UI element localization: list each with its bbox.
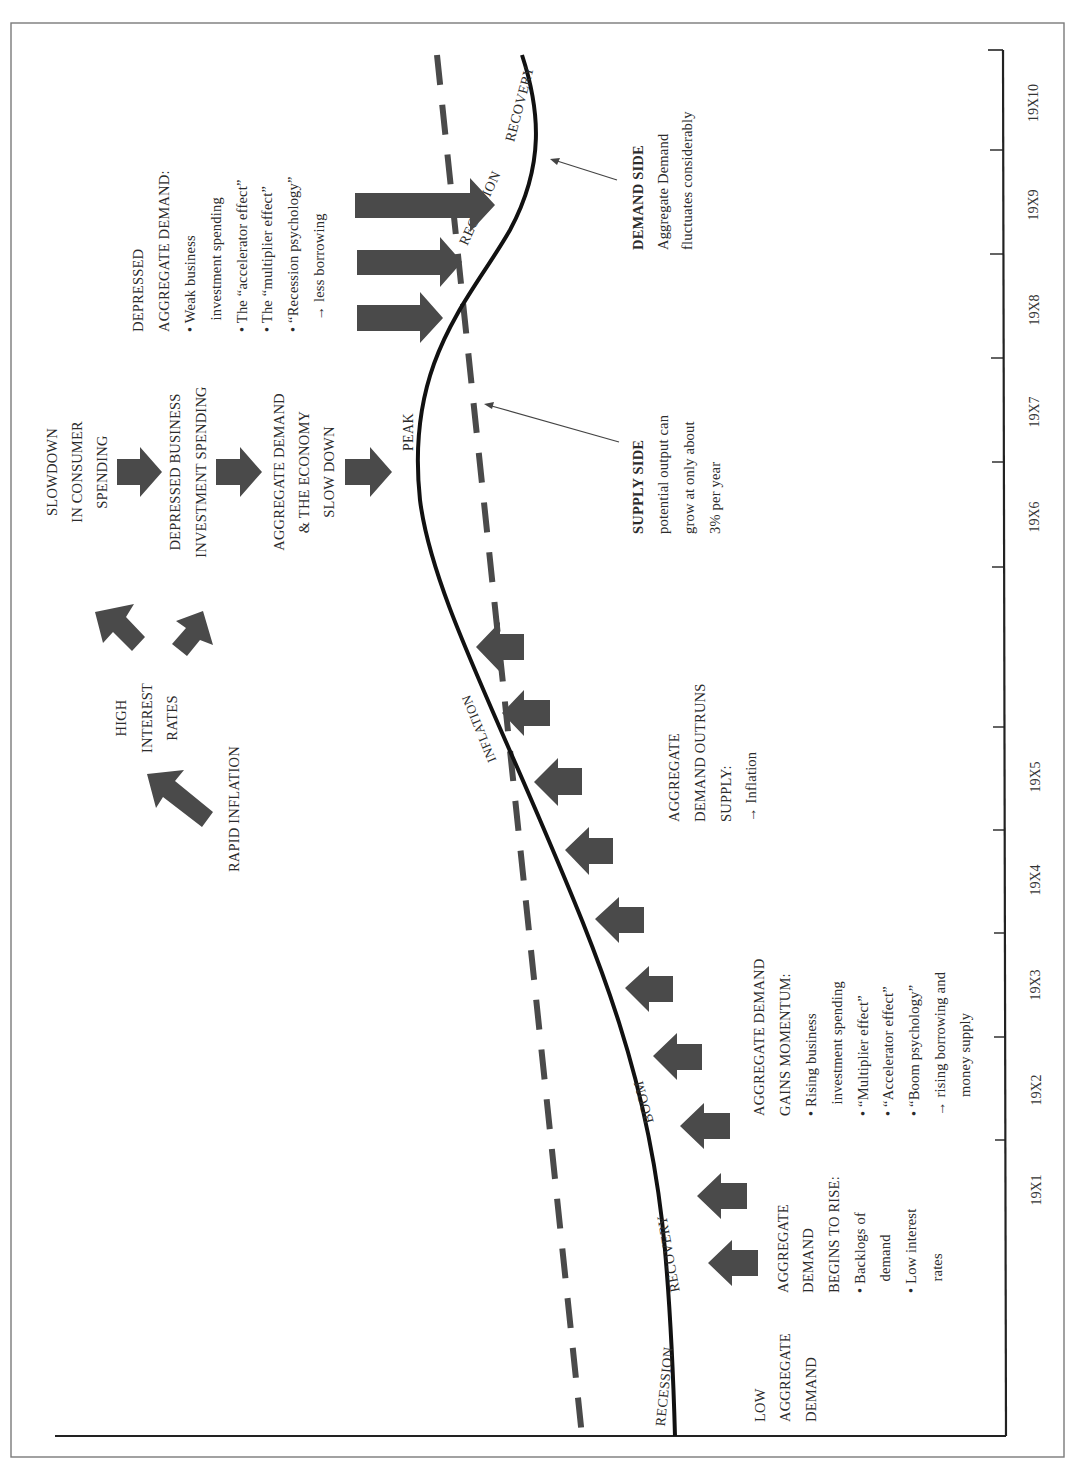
svg-text:rates: rates <box>929 1253 945 1293</box>
arrow-right-icon <box>117 447 162 497</box>
svg-text:Aggregate Demand: Aggregate Demand <box>655 133 671 250</box>
svg-text:BEGINS TO RISE:: BEGINS TO RISE: <box>826 1176 842 1293</box>
tick-19x10: 19X10 <box>1026 84 1041 122</box>
svg-text:investment spending: investment spending <box>208 197 224 332</box>
svg-text:AGGREGATE: AGGREGATE <box>777 1333 793 1422</box>
svg-text:money supply: money supply <box>957 1012 973 1116</box>
svg-text:• “Boom psychology”: • “Boom psychology” <box>906 985 922 1116</box>
begins-to-rise-note: AGGREGATE DEMAND BEGINS TO RISE: • Backl… <box>775 1176 945 1293</box>
arrow-left-icon <box>476 622 524 672</box>
svg-text:• Low interest: • Low interest <box>903 1209 919 1293</box>
tick-19x3: 19X3 <box>1028 969 1043 1000</box>
svg-text:→ rising borrowing and: → rising borrowing and <box>932 971 948 1116</box>
svg-text:investment spending: investment spending <box>829 981 845 1116</box>
tick-19x2: 19X2 <box>1029 1074 1044 1105</box>
arrow-up-left-icon <box>95 604 145 651</box>
arrow-left-icon <box>653 1033 702 1080</box>
arrow-up-left-icon <box>147 770 213 827</box>
svg-text:fluctuates considerably: fluctuates considerably <box>679 111 695 250</box>
high-interest-note: HIGH INTEREST RATES <box>113 683 180 753</box>
svg-text:• “Recession psychology”: • “Recession psychology” <box>285 176 301 332</box>
svg-text:• Rising business: • Rising business <box>803 1013 819 1116</box>
demand-side-title: DEMAND SIDE <box>630 145 646 250</box>
outruns-supply-note: AGGREGATE DEMAND OUTRUNS SUPPLY: → Infla… <box>666 683 759 822</box>
tick-19x9: 19X9 <box>1026 189 1041 220</box>
svg-text:DEMAND OUTRUNS: DEMAND OUTRUNS <box>692 683 708 822</box>
svg-text:• The “accelerator effect”: • The “accelerator effect” <box>234 179 250 332</box>
demand-side-callout: DEMAND SIDE Aggregate Demand fluctuates … <box>630 111 695 250</box>
phase-peak: PEAK <box>401 413 416 451</box>
arrow-left-icon <box>534 758 582 806</box>
arrow-left-icon <box>565 827 613 875</box>
svg-text:AGGREGATE DEMAND: AGGREGATE DEMAND <box>271 393 287 550</box>
gains-momentum-note: AGGREGATE DEMAND GAINS MOMENTUM: • Risin… <box>751 959 973 1116</box>
recession-arrows <box>355 178 495 343</box>
depressed-demand-note: DEPRESSED AGGREGATE DEMAND: • Weak busin… <box>130 170 327 332</box>
economy-slow-note: AGGREGATE DEMAND & THE ECONOMY SLOW DOWN <box>271 393 337 550</box>
business-cycle-diagram: 19X10 19X9 19X8 19X7 19X6 19X5 19X4 19X3… <box>0 0 1074 1463</box>
svg-text:HIGH: HIGH <box>113 699 129 736</box>
arrow-left-icon <box>680 1103 730 1149</box>
svg-text:AGGREGATE DEMAND:: AGGREGATE DEMAND: <box>156 170 172 332</box>
slowdown-chain-arrows <box>117 447 392 497</box>
svg-text:& THE ECONOMY: & THE ECONOMY <box>296 410 312 533</box>
svg-text:INTEREST: INTEREST <box>139 683 155 753</box>
svg-text:• “Accelerator effect”: • “Accelerator effect” <box>880 986 896 1116</box>
svg-text:SLOWDOWN: SLOWDOWN <box>44 428 60 516</box>
phase-boom: BOOM <box>631 1079 657 1125</box>
svg-text:AGGREGATE: AGGREGATE <box>666 733 682 822</box>
svg-text:DEMAND: DEMAND <box>803 1357 819 1422</box>
arrow-left-icon <box>625 966 673 1012</box>
arrow-up-left-icon <box>172 611 213 656</box>
arrow-right-icon <box>216 447 262 497</box>
svg-text:DEMAND: DEMAND <box>800 1228 816 1293</box>
svg-text:• Weak business: • Weak business <box>182 235 198 332</box>
svg-text:→ less borrowing: → less borrowing <box>311 213 327 332</box>
arrow-right-icon <box>357 237 462 287</box>
svg-text:demand: demand <box>877 1234 893 1293</box>
svg-text:DEPRESSED: DEPRESSED <box>130 249 146 332</box>
tick-19x5: 19X5 <box>1028 761 1043 792</box>
tick-19x8: 19X8 <box>1027 294 1042 325</box>
svg-text:AGGREGATE: AGGREGATE <box>775 1204 791 1293</box>
slowdown-consumer-note: SLOWDOWN IN CONSUMER SPENDING <box>44 421 110 523</box>
svg-text:IN CONSUMER: IN CONSUMER <box>69 421 85 523</box>
svg-text:GAINS MOMENTUM:: GAINS MOMENTUM: <box>777 973 793 1116</box>
arrow-right-icon <box>357 292 443 343</box>
svg-text:LOW: LOW <box>752 1388 768 1422</box>
svg-text:AGGREGATE DEMAND: AGGREGATE DEMAND <box>751 959 767 1116</box>
depressed-business-note: DEPRESSED BUSINESS INVESTMENT SPENDING <box>167 386 209 558</box>
callout-pointers <box>484 158 619 442</box>
time-axis <box>988 50 1006 1436</box>
tick-19x7: 19X7 <box>1027 396 1042 427</box>
phase-inflation: INFLATION <box>458 693 499 765</box>
svg-text:SLOW DOWN: SLOW DOWN <box>321 426 337 518</box>
svg-text:→ Inflation: → Inflation <box>743 751 759 822</box>
svg-text:SPENDING: SPENDING <box>94 435 110 509</box>
arrow-left-icon <box>708 1240 758 1286</box>
svg-text:SUPPLY:: SUPPLY: <box>718 765 734 822</box>
svg-text:• “Multiplier effect”: • “Multiplier effect” <box>855 995 871 1116</box>
arrow-left-icon <box>697 1173 747 1219</box>
svg-text:3% per year: 3% per year <box>707 462 723 534</box>
low-demand-note: LOW AGGREGATE DEMAND <box>752 1333 819 1422</box>
tick-19x4: 19X4 <box>1028 864 1043 895</box>
time-axis-labels: 19X10 19X9 19X8 19X7 19X6 19X5 19X4 19X3… <box>1026 84 1044 1206</box>
arrow-right-icon <box>345 447 392 497</box>
supply-side-title: SUPPLY SIDE <box>630 440 646 534</box>
svg-text:• Backlogs of: • Backlogs of <box>852 1212 868 1293</box>
svg-text:grow at only about: grow at only about <box>681 421 697 534</box>
arrow-right-icon <box>355 178 495 232</box>
arrow-left-icon <box>595 897 644 943</box>
rapid-inflation-note: RAPID INFLATION <box>226 746 242 872</box>
supply-side-callout: SUPPLY SIDE potential output can grow at… <box>630 414 723 534</box>
svg-text:• The “multiplier effect”: • The “multiplier effect” <box>259 186 275 332</box>
tick-19x6: 19X6 <box>1027 501 1042 532</box>
svg-text:potential output can: potential output can <box>655 414 671 534</box>
phase-recovery-start: RECOVERY <box>654 1214 682 1293</box>
svg-text:INVESTMENT SPENDING: INVESTMENT SPENDING <box>193 386 209 558</box>
svg-text:RATES: RATES <box>164 695 180 740</box>
tick-19x1: 19X1 <box>1029 1174 1044 1205</box>
upswing-arrows <box>476 622 758 1286</box>
svg-text:DEPRESSED BUSINESS: DEPRESSED BUSINESS <box>167 393 183 550</box>
